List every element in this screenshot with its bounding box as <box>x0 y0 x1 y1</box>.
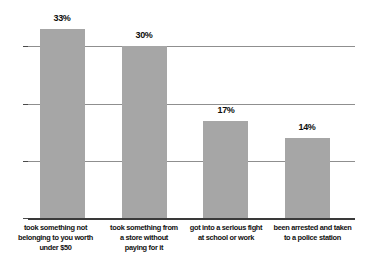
category-label-1-line-2: belonging to you worth <box>4 233 107 243</box>
x-axis-line <box>28 218 355 220</box>
category-label-1-line-3: under $50 <box>4 243 107 253</box>
bar-value-label-3: 17% <box>196 105 256 115</box>
bar-been-arrested <box>285 138 330 218</box>
bar-chart: 30% 20% 10% 0% 33% 30% 17% 14% took some… <box>0 0 370 280</box>
bar-value-label-1: 33% <box>32 13 92 23</box>
ytick-mark-30 <box>23 46 28 47</box>
plot-area: 30% 20% 10% 0% <box>28 14 355 218</box>
category-label-1: took something not belonging to you wort… <box>4 223 107 253</box>
bar-value-label-2: 30% <box>114 30 174 40</box>
category-label-2-line-3: paying for it <box>94 243 194 253</box>
category-label-4-line-2: to a police station <box>260 233 365 243</box>
category-label-4-line-1: been arrested and taken <box>260 223 365 233</box>
ytick-mark-10 <box>23 161 28 162</box>
category-label-4: been arrested and taken to a police stat… <box>260 223 365 243</box>
bar-took-something-from-store <box>122 46 167 218</box>
category-label-1-line-1: took something not <box>4 223 107 233</box>
bar-value-label-4: 14% <box>277 122 337 132</box>
bar-serious-fight <box>203 121 248 218</box>
ytick-mark-20 <box>23 104 28 105</box>
bar-took-something-not-belonging <box>40 29 85 218</box>
